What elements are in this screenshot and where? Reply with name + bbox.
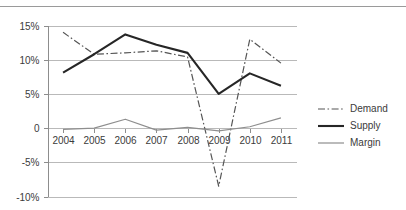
x-tick-label: 2006 xyxy=(114,135,137,146)
x-tick-label: 2005 xyxy=(83,135,106,146)
tickmarks-group xyxy=(44,27,282,198)
y-tick-label: 10% xyxy=(19,55,39,66)
legend-label-margin: Margin xyxy=(350,137,381,148)
x-tick-label: 2010 xyxy=(239,135,262,146)
y-axis-tick-labels: 15%10%5%0-5%-10% xyxy=(16,21,40,203)
data-series-group xyxy=(63,32,281,186)
y-tick-label: 0 xyxy=(34,123,40,134)
line-chart: 15%10%5%0-5%-10% 20042005200620072008200… xyxy=(0,0,406,210)
legend-label-supply: Supply xyxy=(350,120,381,131)
y-tick-label: -5% xyxy=(22,157,40,168)
y-tick-label: -10% xyxy=(16,192,39,203)
chart-legend: DemandSupplyMargin xyxy=(318,103,388,148)
x-axis-tick-labels: 20042005200620072008200920102011 xyxy=(52,135,292,146)
chart-figure: 15%10%5%0-5%-10% 20042005200620072008200… xyxy=(0,0,406,210)
x-tick-label: 2008 xyxy=(177,135,200,146)
x-tick-label: 2007 xyxy=(145,135,168,146)
series-line-supply xyxy=(63,34,281,94)
y-tick-label: 5% xyxy=(25,89,40,100)
legend-label-demand: Demand xyxy=(350,103,388,114)
x-tick-label: 2011 xyxy=(271,135,293,146)
x-tick-label: 2004 xyxy=(52,135,75,146)
series-line-demand xyxy=(63,32,281,186)
x-tick-label: 2009 xyxy=(208,135,231,146)
y-tick-label: 15% xyxy=(19,21,39,32)
gridlines-group xyxy=(48,27,297,198)
